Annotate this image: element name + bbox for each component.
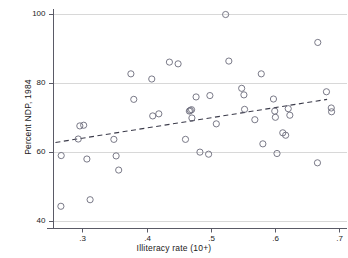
data-point-marker <box>274 150 280 156</box>
gridlines <box>54 15 348 222</box>
data-point-marker <box>175 61 181 67</box>
data-point-marker <box>87 197 93 203</box>
data-point-marker <box>314 160 320 166</box>
data-point-marker <box>113 153 119 159</box>
data-point-marker <box>182 136 188 142</box>
data-point-marker <box>287 112 293 118</box>
data-point-marker <box>213 121 219 127</box>
data-point-marker <box>260 141 266 147</box>
data-point-marker <box>226 58 232 64</box>
data-point-marker <box>239 85 245 91</box>
x-tick-label: .6 <box>265 234 287 243</box>
y-axis-title: Percent NDP, 1984 <box>23 37 33 197</box>
data-point-marker <box>58 152 64 158</box>
axis-lines <box>47 9 347 229</box>
data-point-marker <box>58 203 64 209</box>
data-point-marker <box>166 59 172 65</box>
data-point-marker <box>84 156 90 162</box>
data-point-marker <box>258 71 264 77</box>
data-point-marker <box>116 167 122 173</box>
data-point-marker <box>241 92 247 98</box>
data-point-marker <box>128 71 134 77</box>
plot-canvas <box>0 0 348 258</box>
data-point-marker <box>270 96 276 102</box>
data-point-marker <box>149 76 155 82</box>
data-point-marker <box>189 115 195 121</box>
data-point-marker <box>252 117 258 123</box>
data-point-marker <box>285 106 291 112</box>
scatter-plot-figure: 406080100 .3.4.5.6.7 Percent NDP, 1984 I… <box>0 0 348 258</box>
data-point-marker <box>207 92 213 98</box>
data-point-marker <box>315 39 321 45</box>
data-point-marker <box>111 136 117 142</box>
data-point-marker <box>156 111 162 117</box>
data-point-marker <box>81 122 87 128</box>
y-tick-label: 40 <box>20 216 46 225</box>
data-point-marker <box>323 89 329 95</box>
data-point-marker <box>241 106 247 112</box>
x-tick-label: .4 <box>137 234 159 243</box>
x-tick-label: .3 <box>72 234 94 243</box>
data-point-marker <box>193 94 199 100</box>
y-axis-ticks <box>49 15 54 222</box>
x-tick-label: .7 <box>329 234 348 243</box>
data-point-marker <box>150 113 156 119</box>
data-point-marker <box>272 108 278 114</box>
x-axis-title: Illiteracy rate (10+) <box>0 243 348 253</box>
x-tick-label: .5 <box>201 234 223 243</box>
data-point-marker <box>328 109 334 115</box>
data-point-marker <box>131 96 137 102</box>
data-point-marker <box>272 114 278 120</box>
data-points <box>58 11 335 209</box>
y-tick-label: 100 <box>20 9 46 18</box>
